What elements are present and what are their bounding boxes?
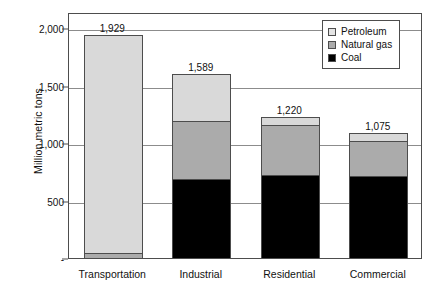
bar-stack-industrial[interactable] xyxy=(172,74,231,259)
segment-natural-gas[interactable] xyxy=(350,141,407,177)
y-tick-label: 2,000 xyxy=(4,24,64,35)
segment-coal[interactable] xyxy=(262,175,319,258)
bar-group[interactable]: 1,929 xyxy=(84,13,141,259)
legend-item-petroleum[interactable]: Petroleum xyxy=(328,25,392,38)
y-tick-label: 1,500 xyxy=(4,81,64,92)
y-tick-label: 500 xyxy=(4,196,64,207)
segment-petroleum[interactable] xyxy=(262,118,319,125)
bar-stack-commercial[interactable] xyxy=(349,133,408,259)
petroleum-swatch-icon xyxy=(328,28,336,36)
x-label-industrial: Industrial xyxy=(157,268,246,280)
y-axis-title: Million metric tons xyxy=(32,46,44,216)
y-tick-label: - xyxy=(4,254,64,265)
bar-group[interactable]: 1,220 xyxy=(261,13,318,259)
x-label-transportation: Transportation xyxy=(68,268,157,280)
segment-natural-gas[interactable] xyxy=(85,253,142,258)
segment-natural-gas[interactable] xyxy=(262,125,319,174)
segment-petroleum[interactable] xyxy=(173,75,230,120)
legend-label-natural-gas: Natural gas xyxy=(341,38,392,51)
legend-label-petroleum: Petroleum xyxy=(341,25,387,38)
legend: Petroleum Natural gas Coal xyxy=(322,20,400,69)
bar-stack-transportation[interactable] xyxy=(84,35,143,259)
coal-swatch-icon xyxy=(328,54,336,62)
legend-label-coal: Coal xyxy=(341,51,362,64)
bar-value-label: 1,589 xyxy=(172,62,229,73)
bar-group[interactable]: 1,589 xyxy=(172,13,229,259)
y-tick-label: 1,000 xyxy=(4,139,64,150)
natural-gas-swatch-icon xyxy=(328,41,336,49)
bar-value-label: 1,220 xyxy=(261,105,318,116)
segment-coal[interactable] xyxy=(173,179,230,258)
bar-value-label: 1,075 xyxy=(349,121,406,132)
bar-stack-residential[interactable] xyxy=(261,117,320,259)
bar-value-label: 1,929 xyxy=(84,23,141,34)
stacked-bar-chart: Million metric tons 2,0001,5001,000500- … xyxy=(0,0,443,293)
x-label-residential: Residential xyxy=(245,268,334,280)
segment-natural-gas[interactable] xyxy=(173,121,230,179)
legend-item-natural-gas[interactable]: Natural gas xyxy=(328,38,392,51)
x-label-commercial: Commercial xyxy=(334,268,423,280)
segment-coal[interactable] xyxy=(350,176,407,258)
legend-item-coal[interactable]: Coal xyxy=(328,51,392,64)
segment-petroleum[interactable] xyxy=(85,36,142,253)
